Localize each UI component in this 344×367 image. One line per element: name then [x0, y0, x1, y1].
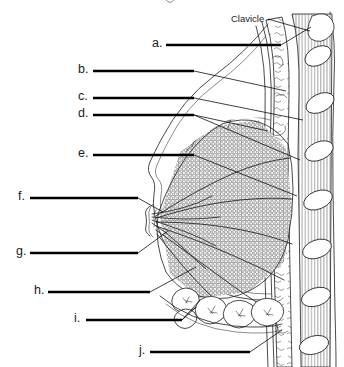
clavicle-label: Clavicle [231, 13, 264, 24]
label-letter-b: b. [78, 62, 88, 76]
label-letter-e: e. [78, 146, 88, 160]
anatomy-diagram-canvas: a. b. c. d. e. f. g. h. i. j. Clavicle [0, 0, 344, 367]
breast-anatomy-labeling-figure: a. b. c. d. e. f. g. h. i. j. Clavicle [0, 0, 344, 367]
label-letter-h: h. [34, 283, 44, 297]
label-letter-j: j. [138, 343, 145, 357]
label-letter-a: a. [152, 36, 162, 50]
label-letter-c: c. [78, 89, 88, 103]
label-letter-d: d. [78, 106, 88, 120]
named-label-text: Clavicle [231, 13, 264, 24]
label-letter-i: i. [74, 311, 80, 325]
label-letter-g: g. [16, 244, 26, 258]
label-letter-f: f. [18, 189, 25, 203]
